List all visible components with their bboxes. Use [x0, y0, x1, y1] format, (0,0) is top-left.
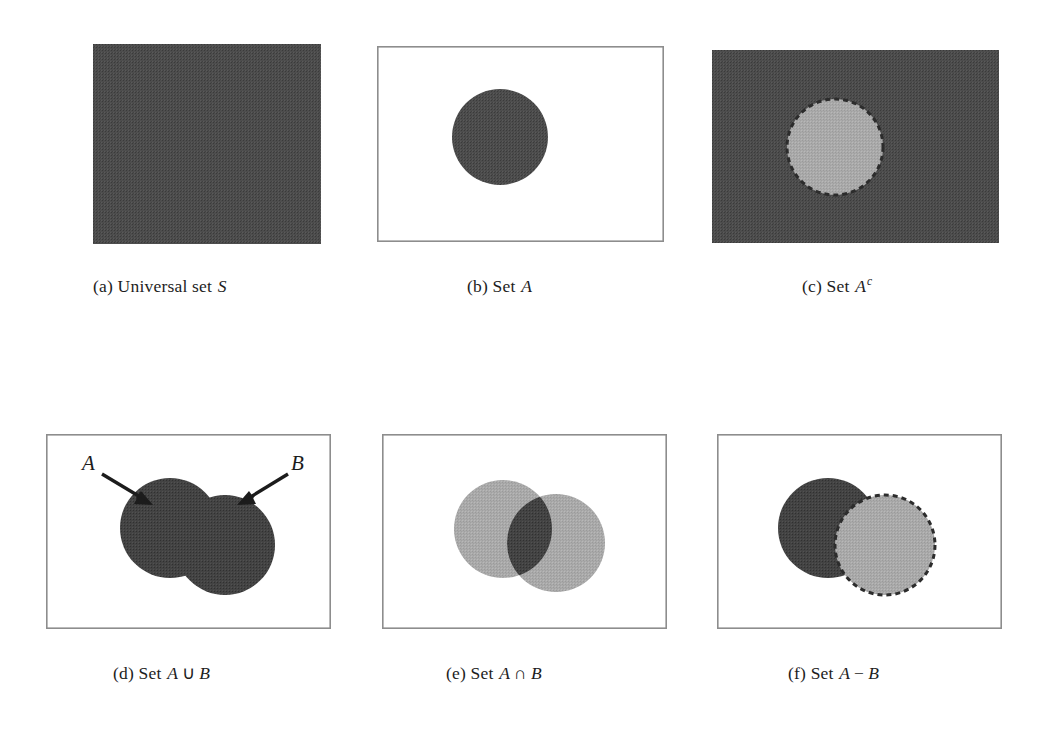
panel-f-graphic	[717, 434, 1002, 629]
panel-e-set-a-intersect-b	[382, 434, 667, 629]
caption-f-text: Set	[811, 663, 834, 683]
caption-c-prefix: (c)	[802, 276, 822, 296]
panel-a-universal-set	[93, 44, 321, 244]
set-a-circle	[452, 89, 548, 185]
union-circle-b	[175, 495, 275, 595]
caption-d-symbol-b: B	[198, 663, 211, 683]
panel-c-set-a-complement	[712, 50, 999, 243]
caption-d-prefix: (d)	[113, 663, 134, 683]
caption-e-text: Set	[471, 663, 494, 683]
universal-set-rectangle	[93, 44, 321, 244]
annotation-label-a: A	[82, 451, 95, 476]
caption-c-superscript: c	[867, 275, 872, 287]
panel-c-graphic	[712, 50, 999, 243]
panel-b-graphic	[377, 46, 664, 242]
caption-b-prefix: (b)	[467, 276, 488, 296]
difference-circle-b-dashed	[835, 495, 935, 595]
caption-f-prefix: (f)	[788, 663, 806, 683]
caption-e-symbol-b: B	[530, 663, 543, 683]
caption-e-symbol-a: A	[498, 663, 511, 683]
set-a-circle-dashed	[787, 99, 883, 195]
figure-sheet: (a) Universal set S (b) Set A (c) Set Ac	[0, 0, 1046, 736]
annotation-label-b: B	[291, 451, 304, 476]
panel-f-set-a-minus-b	[717, 434, 1002, 629]
caption-d-symbol-a: A	[166, 663, 179, 683]
caption-c-symbol: A	[854, 276, 867, 296]
caption-e-operator: ∩	[511, 663, 530, 683]
caption-panel-a: (a) Universal set S	[93, 276, 228, 297]
caption-f-symbol-a: A	[838, 663, 851, 683]
caption-d-text: Set	[139, 663, 162, 683]
caption-panel-e: (e) Set A∩B	[446, 663, 543, 684]
caption-f-symbol-b: B	[867, 663, 880, 683]
caption-c-text: Set	[827, 276, 850, 296]
caption-d-operator: ∪	[179, 663, 198, 683]
caption-b-symbol: A	[520, 276, 533, 296]
caption-a-prefix: (a)	[93, 276, 113, 296]
caption-panel-f: (f) Set A−B	[788, 663, 880, 684]
panel-b-set-a	[377, 46, 664, 242]
caption-a-symbol: S	[217, 276, 228, 296]
caption-panel-d: (d) Set A∪B	[113, 663, 211, 684]
caption-e-prefix: (e)	[446, 663, 466, 683]
panel-d-set-a-union-b: A B	[46, 434, 331, 629]
caption-panel-b: (b) Set A	[467, 276, 533, 297]
panel-a-graphic	[93, 44, 321, 244]
caption-f-operator: −	[851, 663, 867, 683]
panel-e-graphic	[382, 434, 667, 629]
caption-a-text: Universal set	[118, 276, 212, 296]
caption-panel-c: (c) Set Ac	[802, 276, 872, 297]
caption-b-text: Set	[493, 276, 516, 296]
